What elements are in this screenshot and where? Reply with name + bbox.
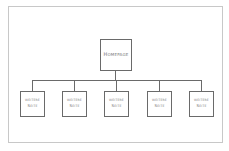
root-stem-line (115, 71, 116, 80)
homepage-label: Homepage (104, 52, 129, 58)
child-node-label-line2: Seite (69, 104, 79, 109)
child-3-connector (116, 80, 117, 91)
child-node-label-line2: Seite (27, 104, 37, 109)
child-node-label-line2: Seite (111, 104, 121, 109)
child-node-3: weitere Seite (104, 91, 129, 117)
horizontal-bus-line (32, 80, 202, 81)
child-node-label-line2: Seite (196, 104, 206, 109)
child-5-connector (201, 80, 202, 91)
child-1-connector (32, 80, 33, 91)
child-node-4: weitere Seite (147, 91, 172, 117)
child-node-2: weitere Seite (62, 91, 87, 117)
homepage-node: Homepage (100, 39, 132, 71)
child-node-label-line2: Seite (154, 104, 164, 109)
child-node-1: weitere Seite (20, 91, 45, 117)
child-4-connector (159, 80, 160, 91)
child-2-connector (74, 80, 75, 91)
child-node-5: weitere Seite (189, 91, 214, 117)
